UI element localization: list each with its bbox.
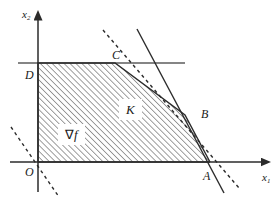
origin-label: O xyxy=(25,166,34,178)
figure-container: x2 x1 O D C B A K ∇f xyxy=(0,0,280,202)
y-axis-subscript: 2 xyxy=(27,14,30,21)
vertex-label-A: A xyxy=(203,170,210,182)
gradient-label: ∇f xyxy=(58,124,85,145)
gradient-function-letter: f xyxy=(74,127,78,142)
vertex-label-C: C xyxy=(112,49,120,61)
region-label-K: K xyxy=(119,99,142,120)
x-axis-subscript: 1 xyxy=(267,177,270,184)
vertex-label-D: D xyxy=(25,69,34,81)
vertex-label-B: B xyxy=(201,108,208,120)
nabla-icon: ∇ xyxy=(65,127,74,142)
y-axis-label: x2 xyxy=(22,9,30,22)
x-axis-label: x1 xyxy=(262,172,270,185)
